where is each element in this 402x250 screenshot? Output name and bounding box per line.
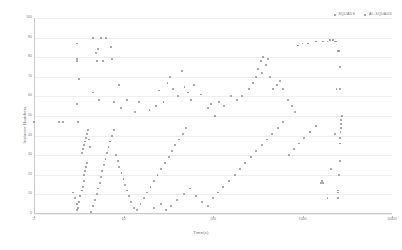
data-point [217, 192, 219, 194]
data-point [271, 133, 273, 135]
data-point [294, 111, 296, 113]
data-point [81, 152, 83, 154]
data-point [157, 174, 159, 176]
y-tick-label: 80 [28, 55, 32, 59]
data-point [88, 139, 90, 141]
data-point [172, 88, 174, 90]
data-point [111, 135, 113, 137]
data-point [94, 199, 96, 201]
x-tick-label: 10000 [387, 218, 397, 222]
data-point [181, 70, 183, 72]
data-point [117, 160, 119, 162]
data-point [341, 115, 343, 117]
data-point [337, 197, 339, 199]
data-point [260, 60, 262, 62]
data-point [160, 168, 162, 170]
data-point [327, 41, 329, 43]
data-point [315, 41, 317, 43]
data-point [82, 186, 84, 188]
data-point [252, 82, 254, 84]
data-point [169, 76, 171, 78]
data-point [92, 92, 94, 94]
data-point [210, 103, 212, 105]
data-point [150, 186, 152, 188]
data-point [96, 60, 98, 62]
y-tick-label: 60 [28, 95, 32, 99]
data-point [85, 137, 87, 139]
data-point [189, 188, 191, 190]
data-point [338, 50, 340, 52]
data-point [98, 99, 100, 101]
data-point [164, 162, 166, 164]
data-point [123, 178, 125, 180]
data-point [214, 115, 216, 117]
data-point [128, 195, 130, 197]
data-point [86, 162, 88, 164]
x-axis-title: Time(s) [0, 230, 402, 235]
data-point [78, 201, 80, 203]
data-point [183, 193, 185, 195]
data-point [101, 170, 103, 172]
data-point [255, 150, 257, 152]
data-point [279, 80, 281, 82]
scatter-chart: SQUADS AL-SQUADS 0102030405060708090100 … [0, 0, 402, 250]
legend-label-squads: SQUADS [338, 13, 355, 17]
y-tick-label: 90 [28, 36, 32, 40]
data-point [241, 95, 243, 97]
y-tick-label: 70 [28, 75, 32, 79]
data-point [327, 197, 329, 199]
x-tick-label: 10 [122, 218, 126, 222]
data-point [340, 131, 342, 133]
data-point [207, 107, 209, 109]
data-point [239, 168, 241, 170]
data-point [120, 107, 122, 109]
data-point [113, 101, 115, 103]
data-point [90, 211, 92, 213]
data-point [329, 39, 331, 41]
data-point [298, 143, 300, 145]
data-point [97, 48, 99, 50]
data-point [160, 203, 162, 205]
legend-entry-al-squads[interactable]: AL-SQUADS [364, 13, 392, 17]
data-point [121, 172, 123, 174]
data-point [288, 154, 290, 156]
data-point [78, 78, 80, 80]
data-point [322, 182, 324, 184]
data-point [339, 160, 341, 162]
data-point [228, 180, 230, 182]
data-point [76, 209, 78, 211]
data-point [336, 88, 338, 90]
data-point [81, 190, 83, 192]
data-point [303, 137, 305, 139]
data-point [138, 101, 140, 103]
legend-marker-icon [334, 14, 336, 16]
x-tick-label: 100 [210, 218, 216, 222]
data-point [277, 127, 279, 129]
data-point [134, 111, 136, 113]
data-point [165, 209, 167, 211]
data-point [167, 82, 169, 84]
data-point [100, 176, 102, 178]
data-point [83, 180, 85, 182]
data-point [293, 148, 295, 150]
y-tick-label: 30 [28, 153, 32, 157]
legend-entry-squads[interactable]: SQUADS [334, 13, 356, 17]
data-point [92, 205, 94, 207]
legend-marker-icon [364, 14, 366, 16]
data-point [124, 184, 126, 186]
data-point [83, 174, 85, 176]
data-point [200, 94, 202, 96]
data-point [236, 99, 238, 101]
data-point [111, 58, 113, 60]
data-point [92, 37, 94, 39]
data-point [272, 88, 274, 90]
data-point [339, 66, 341, 68]
data-point [187, 92, 189, 94]
data-point [201, 201, 203, 203]
data-point [33, 121, 35, 123]
data-point [287, 99, 289, 101]
data-point [267, 58, 269, 60]
data-point [84, 170, 86, 172]
data-point [248, 88, 250, 90]
data-point [207, 205, 209, 207]
